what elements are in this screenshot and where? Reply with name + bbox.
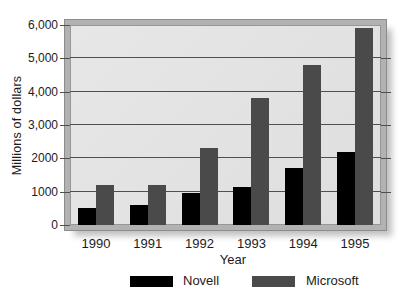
bar-microsoft-1990 [96, 185, 114, 225]
legend-label-microsoft: Microsoft [306, 273, 359, 288]
bar-microsoft-1991 [148, 185, 166, 225]
bar-microsoft-1994 [303, 65, 321, 225]
gridline-2000 [70, 157, 381, 158]
chart-frame [65, 20, 386, 230]
bar-microsoft-1992 [200, 148, 218, 225]
gridline-3000 [70, 124, 381, 125]
plot-area [70, 25, 381, 225]
bar-chart-figure: Millions of dollars 0100020003,0004,0005… [0, 0, 416, 298]
bar-novell-1992 [182, 193, 200, 225]
bar-novell-1993 [233, 187, 251, 225]
legend-swatch-microsoft [252, 276, 295, 287]
bar-novell-1991 [130, 205, 148, 225]
bar-microsoft-1993 [251, 98, 269, 225]
bar-novell-1995 [337, 152, 355, 225]
legend-label-novell: Novell [183, 273, 219, 288]
gridline-4000 [70, 91, 381, 92]
bar-novell-1990 [78, 208, 96, 225]
legend-swatch-novell [130, 276, 173, 287]
bar-microsoft-1995 [355, 28, 373, 225]
gridline-1000 [70, 191, 381, 192]
gridline-5000 [70, 57, 381, 58]
bar-novell-1994 [285, 168, 303, 225]
